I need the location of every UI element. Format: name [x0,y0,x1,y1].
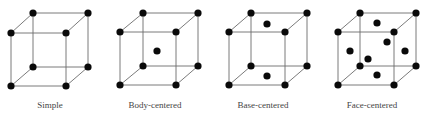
corner-atom [303,62,310,69]
cube-edge [338,13,360,32]
corner-atom [334,28,341,35]
cube-edge [285,66,307,85]
corner-atom [334,81,341,88]
cube-body-centered [116,9,201,88]
corner-atom [225,28,232,35]
corner-atom [139,9,146,16]
centered-atom [364,55,371,62]
corner-atom [412,62,419,69]
cube-simple [7,9,91,89]
cube-edge [229,66,251,85]
centered-atom [263,20,270,27]
corner-atom [62,82,69,89]
cube-face-centered [334,9,419,88]
corner-atom [281,81,288,88]
cube-edge [229,13,251,32]
corner-atom [62,29,69,36]
corner-atom [172,28,179,35]
corner-atom [172,81,179,88]
corner-atom [116,81,123,88]
centered-atom [346,47,353,54]
corner-atom [29,63,36,70]
label-simple: Simple [37,100,63,110]
cube-edge [394,13,416,32]
corner-atom [7,29,14,36]
corner-atom [412,9,419,16]
centered-atom [263,72,270,79]
corner-atom [194,9,201,16]
corner-atom [356,62,363,69]
cube-edge [11,67,33,86]
label-body-centered: Body-centered [129,100,182,110]
cube-edge [285,13,307,32]
centered-atom [153,47,160,54]
corner-atom [84,9,91,16]
corner-atom [390,28,397,35]
cube-edge [120,13,143,32]
cube-edge [338,66,360,85]
corner-atom [7,82,14,89]
cube-edge [176,13,198,32]
centered-atom [401,47,408,54]
corner-atom [303,9,310,16]
cube-edge [394,66,416,85]
corner-atom [29,9,36,16]
cube-base-centered [225,9,310,88]
corner-atom [194,62,201,69]
corner-atom [225,81,232,88]
corner-atom [281,28,288,35]
cube-edge [11,13,33,33]
label-face-centered: Face-centered [347,100,397,110]
corner-atom [139,62,146,69]
centered-atom [383,38,390,45]
centered-atom [373,19,380,26]
corner-atom [356,9,363,16]
corner-atom [84,63,91,70]
corner-atom [390,81,397,88]
crystal-lattice-diagram: Simple Body-centered Base-centered Face-… [0,0,428,114]
centered-atom [373,71,380,78]
label-base-centered: Base-centered [238,100,289,110]
lattice-figure [0,0,428,114]
cube-edge [176,66,198,85]
cube-edge [120,66,143,85]
cube-edge [66,67,88,86]
corner-atom [247,62,254,69]
corner-atom [116,28,123,35]
cube-edge [66,13,88,33]
corner-atom [247,9,254,16]
